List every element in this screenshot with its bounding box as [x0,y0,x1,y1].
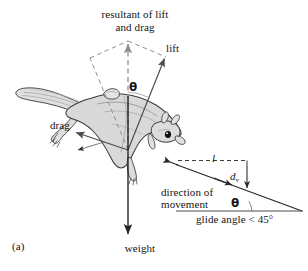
figure-panel-a: resultant of lift and drag lift drag wei… [0,0,308,271]
resultant-label-line2: and drag [116,21,155,33]
direction-label-line1: direction of [161,186,213,198]
label-horizontal-distance-l: l [212,152,215,164]
label-theta-glide: θ [231,197,239,209]
label-direction-of-movement: direction of movement [161,186,231,210]
label-lift: lift [166,42,179,54]
label-resultant-of-lift-and-drag: resultant of lift and drag [76,8,194,34]
squirrel-right-hind-limb [127,157,137,185]
panel-label: (a) [12,240,25,252]
drag-vector-secondary [78,142,104,150]
flying-squirrel-illustration [16,88,185,185]
vertical-drop-subscript: v [236,176,240,184]
direction-label-line2: movement [161,198,208,210]
resultant-label-line1: resultant of lift [101,8,168,20]
label-vertical-drop-dv: dv [230,170,239,186]
glide-diagram-canvas [0,0,308,271]
theta-arc-glide [249,201,252,211]
label-weight: weight [110,242,170,254]
label-theta-main: θ [129,81,137,93]
label-drag: drag [50,119,70,131]
squirrel-eye [165,131,171,138]
glide-path-back-arrow [170,162,178,165]
label-glide-angle: glide angle < 45° [196,213,273,225]
